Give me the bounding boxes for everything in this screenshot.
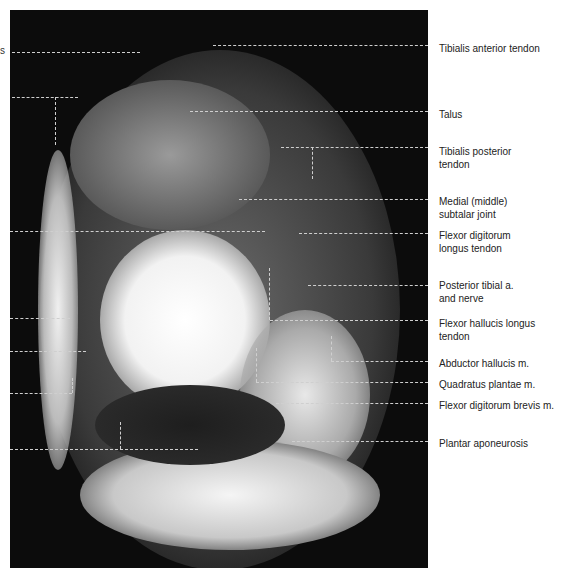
leader-line xyxy=(72,378,73,393)
label-flexor-digitorum-longus-tendon: Flexor digitorum longus tendon xyxy=(439,229,511,255)
leader-line xyxy=(55,97,56,145)
leader-line xyxy=(256,348,257,382)
leader-line xyxy=(10,393,72,394)
leader-line xyxy=(308,285,428,286)
leader-line xyxy=(331,336,332,361)
leader-line xyxy=(120,422,121,449)
lateral-edge-region xyxy=(38,150,78,470)
leader-line xyxy=(276,403,428,404)
leader-line xyxy=(331,361,428,362)
leader-line xyxy=(239,199,428,200)
leader-line xyxy=(270,320,428,321)
leader-line xyxy=(12,52,140,53)
leader-line xyxy=(190,111,428,112)
leader-line xyxy=(10,351,86,352)
label-flexor-hallucis-longus-tendon: Flexor hallucis longus tendon xyxy=(439,317,535,343)
label-medial-subtalar-joint: Medial (middle) subtalar joint xyxy=(439,195,507,221)
leader-line xyxy=(292,441,428,442)
leader-line xyxy=(299,233,428,234)
leader-line xyxy=(10,449,198,450)
mri-scan-image xyxy=(10,10,428,568)
label-tibialis-posterior-tendon: Tibialis posterior tendon xyxy=(439,145,511,171)
label-tibialis-anterior-tendon: Tibialis anterior tendon xyxy=(439,42,540,55)
plantar-muscle-region xyxy=(95,385,285,465)
label-flexor-digitorum-brevis: Flexor digitorum brevis m. xyxy=(439,399,554,412)
label-abductor-hallucis: Abductor hallucis m. xyxy=(439,357,529,370)
leader-line xyxy=(12,97,78,98)
talus-region xyxy=(70,80,270,230)
leader-line xyxy=(10,318,70,319)
leader-line xyxy=(10,231,265,232)
leader-line xyxy=(312,147,313,179)
label-quadratus-plantae: Quadratus plantae m. xyxy=(439,378,535,391)
leader-line xyxy=(256,382,428,383)
truncated-label-fragment: s xyxy=(0,45,5,56)
leader-line xyxy=(213,45,428,46)
label-posterior-tibial-artery-nerve: Posterior tibial a. and nerve xyxy=(439,279,513,305)
leader-line xyxy=(269,268,270,320)
label-plantar-aponeurosis: Plantar aponeurosis xyxy=(439,437,528,450)
label-talus: Talus xyxy=(439,108,462,121)
leader-line xyxy=(281,147,428,148)
